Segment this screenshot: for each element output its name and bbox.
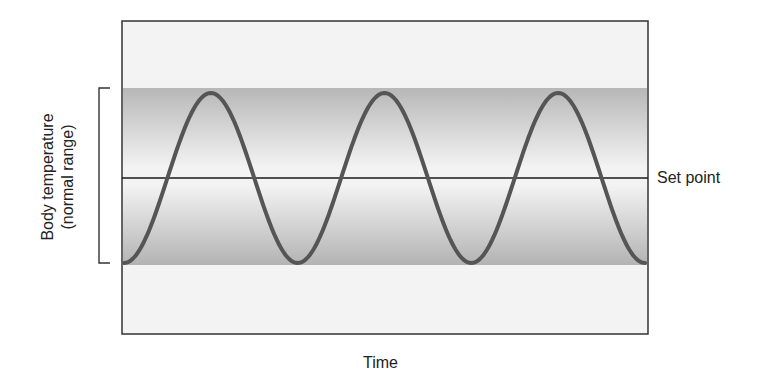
y-axis-label-line2: (normal range) [59,125,77,230]
set-point-label: Set point [657,169,720,187]
homeostasis-diagram: Body temperature (normal range) Set poin… [0,0,773,382]
x-axis-label: Time [363,354,398,372]
normal-range-bracket [99,88,110,263]
normal-range-band [123,88,647,265]
y-axis-label-line1: Body temperature [39,113,57,240]
diagram-canvas [0,0,773,382]
